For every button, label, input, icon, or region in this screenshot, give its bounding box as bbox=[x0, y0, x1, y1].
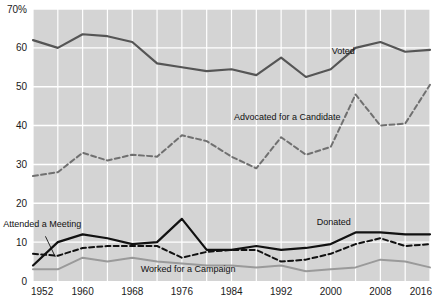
x-tick-label: 1960 bbox=[72, 286, 95, 297]
y-tick-label: 30 bbox=[16, 159, 28, 170]
political-participation-line-chart: 010203040506070% 19521960196819761984199… bbox=[0, 0, 444, 304]
series-label-attended-a-meeting: Attended a Meeting bbox=[3, 219, 81, 229]
x-axis-tick-labels: 195219601968197619841992200020082016 bbox=[31, 286, 432, 297]
x-tick-label: 1952 bbox=[31, 286, 54, 297]
series-label-advocated-for-a-candidate: Advocated for a Candidate bbox=[234, 112, 341, 122]
y-tick-label: 0 bbox=[21, 276, 27, 287]
x-tick-label: 1976 bbox=[171, 286, 194, 297]
x-tick-label: 2016 bbox=[410, 286, 433, 297]
x-tick-label: 1984 bbox=[220, 286, 243, 297]
series-label-voted: Voted bbox=[332, 46, 355, 56]
y-tick-label: 40 bbox=[16, 120, 28, 131]
chart-container: 010203040506070% 19521960196819761984199… bbox=[0, 0, 444, 304]
y-tick-label: 70% bbox=[7, 4, 27, 15]
y-tick-label: 10 bbox=[16, 237, 28, 248]
x-tick-label: 1992 bbox=[270, 286, 293, 297]
x-tick-label: 2008 bbox=[369, 286, 392, 297]
series-label-donated: Donated bbox=[317, 217, 351, 227]
y-tick-label: 50 bbox=[16, 81, 28, 92]
x-tick-label: 2000 bbox=[320, 286, 343, 297]
y-tick-label: 60 bbox=[16, 42, 28, 53]
x-tick-label: 1968 bbox=[121, 286, 144, 297]
y-tick-label: 20 bbox=[16, 198, 28, 209]
series-label-worked-for-a-campaign: Worked for a Campaign bbox=[141, 264, 236, 274]
